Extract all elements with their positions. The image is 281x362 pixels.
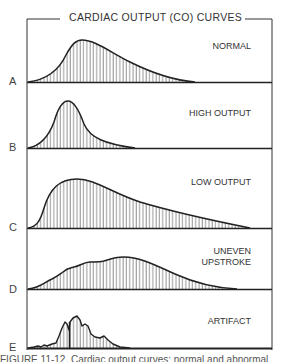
panel-label-normal: NORMAL xyxy=(212,41,251,52)
panel-label-low-output: LOW OUTPUT xyxy=(191,177,251,188)
row-letter-b: B xyxy=(9,141,16,153)
panel-label-artifact: ARTIFACT xyxy=(208,316,251,327)
panel-label-high-output: HIGH OUTPUT xyxy=(189,108,251,119)
row-letter-c: C xyxy=(9,221,17,233)
row-letter-a: A xyxy=(9,75,16,87)
row-letter-d: D xyxy=(9,283,17,295)
figure-caption: FIGURE 11-12. Cardiac output curves: nor… xyxy=(0,354,281,362)
diagram-title: CARDIAC OUTPUT (CO) CURVES xyxy=(66,11,245,23)
panel-label-uneven-upstroke: UNEVEN UPSTROKE xyxy=(201,246,251,268)
row-letter-e: E xyxy=(9,341,16,353)
